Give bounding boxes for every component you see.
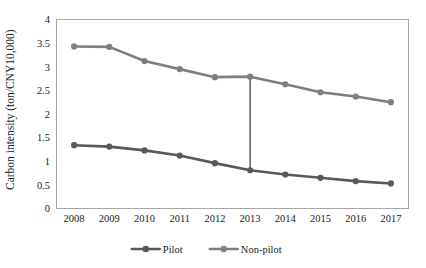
- carbon-intensity-line-chart: Carbon intensity (ton/CNY10,000) 00.511.…: [0, 0, 426, 268]
- data-point: [106, 44, 112, 50]
- data-point: [317, 175, 323, 181]
- chart-background: [0, 0, 426, 268]
- y-tick-label: 2: [45, 109, 50, 120]
- legend-label: Pilot: [163, 244, 183, 255]
- data-point: [71, 43, 77, 49]
- x-tick-label: 2008: [64, 213, 85, 224]
- data-point: [212, 74, 218, 80]
- legend-marker-icon: [221, 246, 228, 253]
- x-tick-label: 2014: [275, 213, 297, 224]
- x-tick-label: 2016: [345, 213, 366, 224]
- y-tick-label: 1.5: [37, 132, 50, 143]
- y-tick-label: 3.5: [37, 38, 50, 49]
- x-tick-label: 2011: [169, 213, 190, 224]
- data-point: [388, 180, 394, 186]
- data-point: [71, 142, 77, 148]
- data-point: [282, 81, 288, 87]
- y-tick-label: 2.5: [37, 85, 50, 96]
- data-point: [177, 152, 183, 158]
- legend-marker-icon: [143, 246, 150, 253]
- data-point: [317, 89, 323, 95]
- data-point: [353, 178, 359, 184]
- y-tick-label: 1: [45, 156, 50, 167]
- x-tick-label: 2010: [134, 213, 155, 224]
- x-tick-label: 2015: [310, 213, 331, 224]
- x-tick-label: 2012: [204, 213, 225, 224]
- data-point: [247, 167, 253, 173]
- data-point: [106, 144, 112, 150]
- chart-canvas: Carbon intensity (ton/CNY10,000) 00.511.…: [0, 0, 426, 268]
- y-axis-title: Carbon intensity (ton/CNY10,000): [4, 29, 17, 190]
- data-point: [282, 171, 288, 177]
- data-point: [353, 93, 359, 99]
- y-tick-label: 3: [45, 62, 50, 73]
- x-tick-label: 2017: [380, 213, 401, 224]
- y-tick-label: 0: [45, 203, 50, 214]
- x-tick-label: 2013: [240, 213, 261, 224]
- x-tick-label: 2009: [99, 213, 120, 224]
- data-point: [141, 58, 147, 64]
- data-point: [212, 160, 218, 166]
- legend-label: Non-pilot: [241, 244, 282, 255]
- data-point: [388, 99, 394, 105]
- data-point: [247, 74, 253, 80]
- data-point: [141, 147, 147, 153]
- y-tick-label: 4: [45, 14, 51, 25]
- data-point: [177, 66, 183, 72]
- y-tick-label: 0.5: [37, 180, 50, 191]
